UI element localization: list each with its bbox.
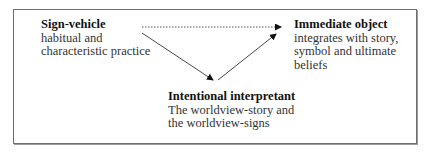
node-desc: The worldview-story and xyxy=(168,104,308,118)
node-title: Immediate object xyxy=(294,18,414,32)
node-desc: the worldview-signs xyxy=(168,117,308,131)
node-immediate-object: Immediate object integrates with story, … xyxy=(294,18,414,72)
node-title: Intentional interpretant xyxy=(168,90,308,104)
node-sign-vehicle: Sign-vehicle habitual and characteristic… xyxy=(41,18,161,59)
node-intentional-interpretant: Intentional interpretant The worldview-s… xyxy=(168,90,308,131)
node-title: Sign-vehicle xyxy=(41,18,161,32)
node-desc: symbol and ultimate xyxy=(294,45,414,59)
node-desc: characteristic practice xyxy=(41,45,161,59)
node-desc: habitual and xyxy=(41,32,161,46)
node-desc: beliefs xyxy=(294,59,414,73)
arrow-interpretant-to-object xyxy=(218,34,276,80)
node-desc: integrates with story, xyxy=(294,32,414,46)
